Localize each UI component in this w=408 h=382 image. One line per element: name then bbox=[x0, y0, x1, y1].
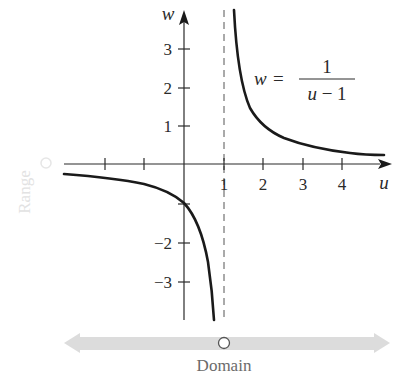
range-indicator: Range bbox=[15, 158, 51, 214]
w-axis-label: w bbox=[162, 3, 175, 24]
w-axis: 3 2 1 −2 −3 w bbox=[154, 3, 190, 320]
curve-left-branch bbox=[64, 174, 214, 320]
w-tick-label-1: 1 bbox=[164, 117, 173, 136]
range-excluded-point-icon bbox=[41, 158, 51, 168]
domain-right-arrow-icon bbox=[374, 333, 390, 353]
equation-equals: = bbox=[273, 68, 284, 89]
equation-denominator: u − 1 bbox=[307, 83, 346, 104]
u-tick-label-3: 3 bbox=[299, 175, 308, 194]
equation-denominator-var: u bbox=[307, 83, 317, 104]
w-tick-label-2: 2 bbox=[164, 79, 173, 98]
range-label: Range bbox=[15, 170, 34, 213]
u-axis: 1 2 3 4 u bbox=[64, 158, 392, 194]
domain-left-arrow-icon bbox=[64, 333, 80, 353]
domain-indicator: Domain bbox=[64, 333, 390, 375]
domain-excluded-point-icon bbox=[219, 338, 230, 349]
u-tick-label-4: 4 bbox=[338, 175, 347, 194]
equation-numerator: 1 bbox=[322, 56, 332, 77]
u-axis-label: u bbox=[379, 172, 389, 193]
u-axis-arrow-icon bbox=[378, 159, 392, 169]
equation-lhs: w bbox=[254, 68, 267, 89]
w-tick-label-3: 3 bbox=[164, 40, 173, 59]
equation-denominator-rest: − 1 bbox=[317, 83, 347, 104]
w-tick-label-neg2: −2 bbox=[154, 234, 172, 253]
function-graph: Range 1 2 3 4 u 3 2 1 −2 −3 w bbox=[0, 0, 408, 382]
u-tick-label-1: 1 bbox=[220, 175, 229, 194]
u-tick-label-2: 2 bbox=[259, 175, 268, 194]
equation-label: w = 1 u − 1 bbox=[254, 56, 355, 104]
w-tick-label-neg3: −3 bbox=[154, 273, 172, 292]
domain-label: Domain bbox=[197, 356, 252, 375]
